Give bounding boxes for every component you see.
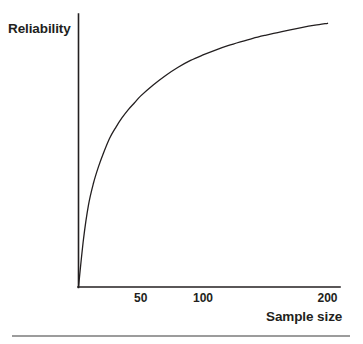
x-axis-label: Sample size [266,310,342,324]
axes-group [78,14,340,288]
x-tick-label-200: 200 [317,292,337,304]
x-tick-label-50: 50 [134,292,147,304]
y-axis-label: Reliability [8,22,71,36]
x-tick-label-100: 100 [193,292,213,304]
figure-panel: Reliability Sample size 50 100 200 [0,0,363,344]
reliability-curve [79,23,328,287]
chart-canvas [0,0,363,344]
data-series-group [79,23,328,287]
